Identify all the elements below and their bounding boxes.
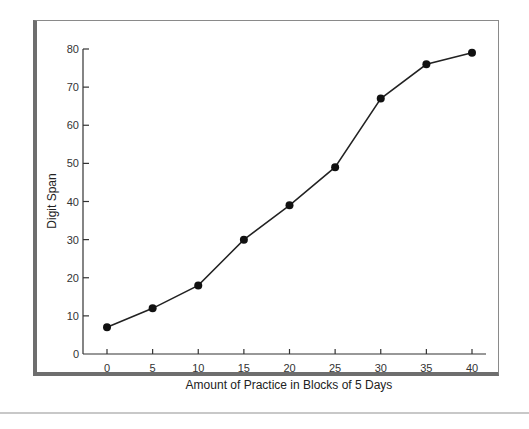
y-tick-label: 40 xyxy=(67,196,79,208)
data-series xyxy=(103,49,476,332)
x-tick-label: 35 xyxy=(420,362,432,374)
data-point xyxy=(194,281,202,289)
x-tick-label: 30 xyxy=(375,362,387,374)
data-point xyxy=(240,236,248,244)
x-tick-label: 20 xyxy=(283,362,295,374)
y-tick-label: 70 xyxy=(67,81,79,93)
data-point xyxy=(377,95,385,103)
data-point xyxy=(149,304,157,312)
axes xyxy=(83,49,486,354)
data-point xyxy=(286,201,294,209)
data-point xyxy=(422,60,430,68)
y-tick-label: 10 xyxy=(67,310,79,322)
y-tick-label: 20 xyxy=(67,272,79,284)
x-tick-label: 15 xyxy=(238,362,250,374)
data-point xyxy=(331,163,339,171)
y-tick-label: 30 xyxy=(67,234,79,246)
y-tick-label: 0 xyxy=(73,348,79,360)
x-tick-label: 25 xyxy=(329,362,341,374)
y-tick-label: 60 xyxy=(67,119,79,131)
x-tick-label: 10 xyxy=(192,362,204,374)
ticks: 010203040506070800510152025303540 xyxy=(67,43,478,374)
y-tick-label: 80 xyxy=(67,43,79,55)
x-axis-title: Amount of Practice in Blocks of 5 Days xyxy=(186,378,393,392)
x-tick-label: 40 xyxy=(466,362,478,374)
x-tick-label: 0 xyxy=(104,362,110,374)
line-chart: 010203040506070800510152025303540 Amount… xyxy=(0,0,529,429)
data-point xyxy=(468,49,476,57)
y-tick-label: 50 xyxy=(67,157,79,169)
y-axis-title: Digit Span xyxy=(45,173,59,228)
series-line xyxy=(107,53,472,328)
data-point xyxy=(103,323,111,331)
x-tick-label: 5 xyxy=(150,362,156,374)
